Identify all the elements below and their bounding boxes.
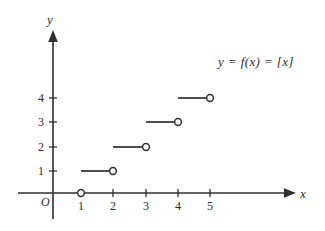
open-endpoint-markers — [78, 95, 214, 197]
y-tick-label-2: 2 — [38, 141, 44, 153]
open-point-5-4 — [207, 95, 214, 102]
open-point-4-3 — [175, 119, 182, 126]
y-tick-label-4: 4 — [38, 92, 44, 104]
y-axis-arrow-icon — [48, 30, 58, 42]
x-tick-label-1: 1 — [78, 200, 84, 212]
y-tick-label-1: 1 — [38, 165, 44, 177]
x-tick-label-3: 3 — [143, 200, 149, 212]
x-axis-group — [18, 188, 296, 198]
open-point-1-0 — [78, 190, 85, 197]
origin-label: O — [41, 196, 50, 208]
y-axis-label: y — [47, 13, 53, 26]
step-segments-group — [81, 98, 207, 171]
y-tick-label-3: 3 — [38, 116, 44, 128]
x-tick-label-4: 4 — [175, 200, 181, 212]
x-axis-arrow-icon — [284, 188, 296, 198]
step-function-figure: 1 2 3 4 5 1 2 3 4 O y x y = f(x) = [x] — [0, 0, 325, 231]
open-point-2-1 — [110, 168, 117, 175]
y-axis-group — [48, 30, 58, 219]
x-tick-label-5: 5 — [207, 200, 213, 212]
x-tick-label-2: 2 — [110, 200, 116, 212]
x-axis-label: x — [300, 187, 306, 200]
open-point-3-2 — [143, 144, 150, 151]
function-equation-annotation: y = f(x) = [x] — [218, 55, 294, 68]
